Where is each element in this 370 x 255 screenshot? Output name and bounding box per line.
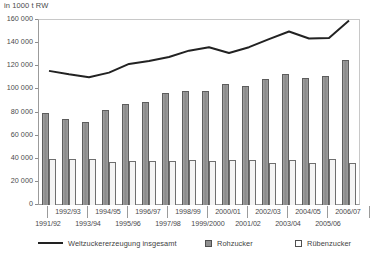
bar-ruebenzucker bbox=[329, 159, 336, 205]
bar-rohzucker bbox=[342, 60, 349, 205]
y-axis-tick-mark bbox=[35, 42, 38, 43]
bar-ruebenzucker bbox=[309, 163, 316, 205]
y-axis-tick-label: 0 bbox=[29, 199, 33, 208]
bar-group bbox=[319, 20, 339, 205]
bar-ruebenzucker bbox=[189, 160, 196, 205]
bar-rohzucker bbox=[242, 86, 249, 205]
bar-group bbox=[79, 20, 99, 205]
legend-label: Weltzuckererzeugung insgesamt bbox=[68, 239, 177, 248]
x-axis-label: 2002/03 bbox=[247, 206, 289, 218]
bar-rohzucker bbox=[222, 84, 229, 205]
y-axis-tick-mark bbox=[35, 88, 38, 89]
bar-group bbox=[39, 20, 59, 205]
x-axis-separator bbox=[247, 206, 248, 218]
x-axis-label: 1999/2000 bbox=[187, 218, 229, 230]
bar-ruebenzucker bbox=[169, 161, 176, 205]
x-axis-labels-lower: 1991/921993/941995/961997/981999/2000200… bbox=[38, 218, 360, 230]
x-axis-label: 1996/97 bbox=[127, 206, 169, 218]
x-axis-label: 1992/93 bbox=[47, 206, 89, 218]
bar-group bbox=[219, 20, 239, 205]
bar-group bbox=[119, 20, 139, 205]
bar-rohzucker bbox=[62, 119, 69, 205]
bar-ruebenzucker bbox=[69, 159, 76, 205]
bar-ruebenzucker bbox=[229, 160, 236, 205]
bar-ruebenzucker bbox=[129, 161, 136, 205]
bar-group bbox=[99, 20, 119, 205]
bar-group bbox=[239, 20, 259, 205]
bar-rohzucker bbox=[82, 122, 89, 205]
bar-group bbox=[159, 20, 179, 205]
x-axis-label: 1994/95 bbox=[87, 206, 129, 218]
y-axis-tick-label: 160 000 bbox=[7, 14, 33, 23]
y-axis-tick-label: 80 000 bbox=[11, 107, 33, 116]
bar-ruebenzucker bbox=[289, 160, 296, 205]
x-axis-label: 2001/02 bbox=[227, 218, 269, 230]
x-axis-separator bbox=[47, 206, 48, 218]
bar-group bbox=[199, 20, 219, 205]
y-axis-tick-label: 100 000 bbox=[7, 83, 33, 92]
y-axis-tick-label: 120 000 bbox=[7, 60, 33, 69]
y-axis-tick-label: 40 000 bbox=[11, 153, 33, 162]
bar-group bbox=[139, 20, 159, 205]
x-axis-label: 1998/99 bbox=[167, 206, 209, 218]
y-axis-tick-mark bbox=[35, 204, 38, 205]
unit-label: in 1000 t RW bbox=[4, 1, 48, 10]
legend-label: Rübenzucker bbox=[307, 239, 351, 248]
bar-ruebenzucker bbox=[349, 163, 356, 205]
bar-group bbox=[59, 20, 79, 205]
bar-rohzucker bbox=[262, 79, 269, 205]
bar-rohzucker bbox=[202, 91, 209, 205]
y-axis-tick-mark bbox=[35, 19, 38, 20]
x-axis-labels-upper: 1992/931994/951996/971998/992000/012002/… bbox=[38, 206, 360, 218]
bar-rohzucker bbox=[102, 110, 109, 205]
y-axis: 160 000140 000120 000100 00080 00060 000… bbox=[0, 19, 38, 205]
bar-group bbox=[339, 20, 359, 205]
y-axis-tick-mark bbox=[35, 135, 38, 136]
bar-rohzucker bbox=[122, 104, 129, 205]
bar-rohzucker bbox=[42, 113, 49, 205]
bar-ruebenzucker bbox=[49, 159, 56, 205]
x-axis-label: 2000/01 bbox=[207, 206, 249, 218]
y-axis-tick-label: 140 000 bbox=[7, 37, 33, 46]
bar-group bbox=[259, 20, 279, 205]
bar-ruebenzucker bbox=[89, 159, 96, 205]
x-axis-separator bbox=[167, 206, 168, 218]
x-axis-label: 2004/05 bbox=[287, 206, 329, 218]
legend-empty-square-icon bbox=[295, 240, 302, 247]
bar-group bbox=[179, 20, 199, 205]
bar-ruebenzucker bbox=[149, 161, 156, 205]
bar-ruebenzucker bbox=[269, 163, 276, 205]
y-axis-tick-mark bbox=[35, 112, 38, 113]
x-axis-separator bbox=[327, 206, 328, 218]
bar-rohzucker bbox=[322, 76, 329, 205]
bar-group bbox=[279, 20, 299, 205]
x-axis-label: 2005/06 bbox=[307, 218, 349, 230]
bar-ruebenzucker bbox=[209, 161, 216, 205]
bar-rohzucker bbox=[142, 102, 149, 205]
x-axis-label: 1997/98 bbox=[147, 218, 189, 230]
chart-legend: Weltzuckererzeugung insgesamtRohzuckerRü… bbox=[0, 236, 368, 252]
bar-rohzucker bbox=[282, 74, 289, 205]
x-axis-label: 2003/04 bbox=[267, 218, 309, 230]
x-axis-separator bbox=[87, 206, 88, 218]
x-axis-separator bbox=[287, 206, 288, 218]
y-axis-tick-mark bbox=[35, 181, 38, 182]
legend-item: Rohzucker bbox=[205, 236, 253, 250]
bar-ruebenzucker bbox=[109, 162, 116, 205]
bar-ruebenzucker bbox=[249, 160, 256, 205]
legend-item: Weltzuckererzeugung insgesamt bbox=[38, 236, 177, 250]
x-axis-label: 1991/92 bbox=[27, 218, 69, 230]
y-axis-tick-label: 20 000 bbox=[11, 176, 33, 185]
legend-filled-square-icon bbox=[205, 240, 212, 247]
bar-group bbox=[299, 20, 319, 205]
bar-rohzucker bbox=[162, 93, 169, 205]
bar-rohzucker bbox=[182, 91, 189, 205]
x-axis-label: 1993/94 bbox=[67, 218, 109, 230]
bar-rohzucker bbox=[302, 78, 309, 205]
x-axis-separator bbox=[127, 206, 128, 218]
x-axis-label: 2006/07 bbox=[327, 206, 369, 218]
bars-layer bbox=[39, 20, 359, 205]
x-axis-label: 1995/96 bbox=[107, 218, 149, 230]
legend-label: Rohzucker bbox=[217, 239, 253, 248]
